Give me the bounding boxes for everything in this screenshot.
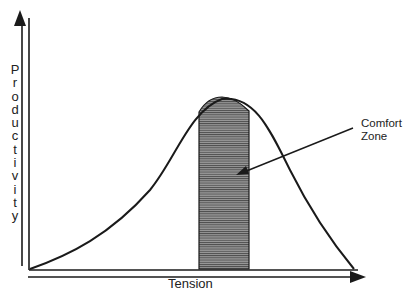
annotation-arrow bbox=[236, 128, 353, 175]
x-arrow-icon bbox=[350, 271, 366, 283]
productivity-tension-diagram bbox=[0, 0, 414, 302]
y-axis-letter: v bbox=[8, 169, 22, 182]
y-axis-letter: o bbox=[8, 90, 22, 103]
y-axis-letter: i bbox=[8, 156, 22, 169]
comfort-zone-region bbox=[199, 97, 249, 269]
y-axis-letter: r bbox=[8, 76, 22, 89]
y-axis-letter: t bbox=[8, 196, 22, 209]
y-axis-letter: c bbox=[8, 129, 22, 142]
y-axis-letter: d bbox=[8, 103, 22, 116]
annotation-line-1: Comfort bbox=[361, 117, 402, 130]
y-axis-letter: t bbox=[8, 143, 22, 156]
bell-curve bbox=[30, 99, 354, 269]
comfort-zone-label: Comfort Zone bbox=[361, 117, 402, 143]
annotation-line-2: Zone bbox=[361, 130, 402, 143]
y-axis-letter: y bbox=[8, 209, 22, 222]
x-axis-label: Tension bbox=[168, 276, 213, 291]
y-axis-letter: P bbox=[8, 63, 22, 76]
y-axis-letter: i bbox=[8, 183, 22, 196]
y-axis-letter: u bbox=[8, 116, 22, 129]
y-axis-label: Productivity Productivity bbox=[8, 63, 22, 223]
y-arrow-icon bbox=[14, 10, 26, 26]
